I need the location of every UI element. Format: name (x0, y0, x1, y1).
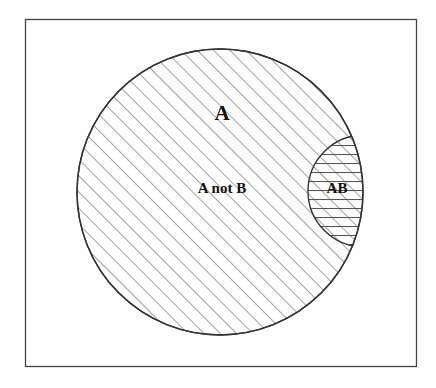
label-a-not-b: A not B (198, 180, 246, 196)
label-set-a: A (214, 101, 230, 125)
venn-diagram: A A not B AB (0, 0, 436, 388)
label-intersection-ab: AB (327, 180, 348, 196)
